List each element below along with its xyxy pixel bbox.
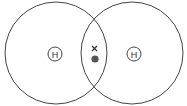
atom-label-right: H [131, 50, 138, 60]
atom-label-left: H [52, 50, 59, 60]
dot-electron-icon [91, 55, 98, 62]
left-nucleus: H [48, 47, 62, 61]
right-nucleus: H [127, 47, 141, 61]
cross-electron-icon [92, 46, 97, 51]
h2-bond-diagram: H H [0, 0, 187, 106]
